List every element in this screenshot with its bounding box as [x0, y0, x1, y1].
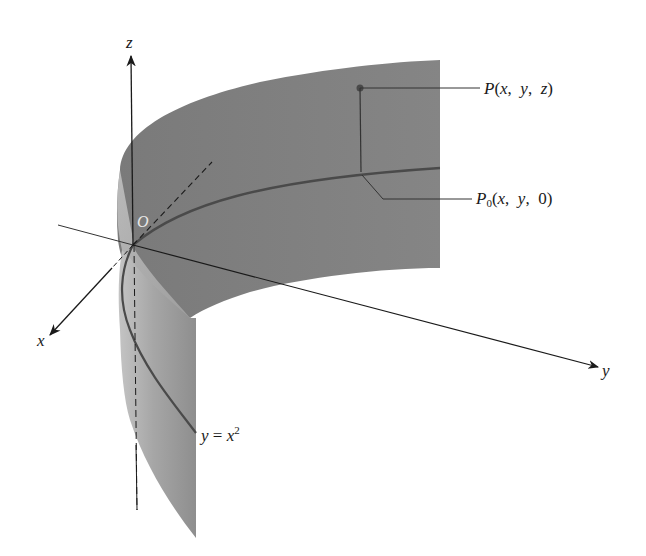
- x-axis-label: x: [37, 332, 45, 349]
- x-axis: [50, 268, 112, 335]
- y-axis-label: y: [602, 362, 610, 379]
- surface-back-panel: [117, 60, 440, 318]
- curve-equation-label: y = x2: [201, 425, 240, 444]
- point-P0-label: P0(x, y, 0): [476, 190, 552, 209]
- point-P-label: P(x, y, z): [484, 80, 553, 97]
- parabolic-cylinder-diagram: z x y O P(x, y, z) P0(x, y, 0) y = x2: [0, 0, 646, 556]
- z-axis-label: z: [126, 34, 133, 51]
- origin-label: O: [137, 214, 149, 230]
